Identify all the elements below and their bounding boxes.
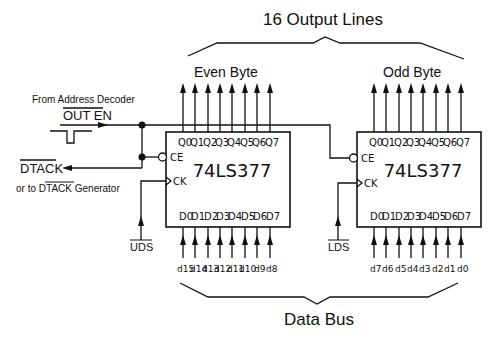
dtack-label: DTACK: [20, 161, 63, 176]
odd-input-pins: [371, 227, 464, 258]
bottom-brace: [180, 283, 458, 304]
even-ce-label: CE: [170, 152, 183, 163]
odd-chip-part-number: 74LS377: [384, 160, 463, 181]
output-lines-title: 16 Output Lines: [263, 10, 383, 29]
svg-text:d6: d6: [382, 264, 394, 274]
data-bus-label: Data Bus: [284, 310, 354, 329]
arrow-left-icon: [62, 165, 72, 171]
even-chip-part-number: 74LS377: [193, 160, 272, 181]
odd-output-pins: [371, 83, 464, 132]
svg-text:Q7: Q7: [265, 137, 279, 148]
svg-text:D6: D6: [444, 211, 458, 222]
uds-clock-wire: [141, 181, 166, 240]
even-byte-label: Even Byte: [194, 64, 258, 80]
ce-inversion-bubble: [350, 154, 358, 162]
svg-text:D6: D6: [253, 211, 267, 222]
svg-text:D1: D1: [191, 211, 205, 222]
even-ck-label: CK: [173, 176, 187, 187]
odd-byte-label: Odd Byte: [383, 64, 442, 80]
uds-label: UDS: [130, 241, 153, 253]
top-brace: [188, 37, 464, 59]
svg-text:d3: d3: [419, 264, 430, 274]
active-low-pulse-icon: [50, 131, 92, 143]
svg-text:d7: d7: [370, 264, 381, 274]
svg-text:d5: d5: [395, 264, 406, 274]
svg-text:d8: d8: [266, 264, 278, 274]
out-en-signal-label: OUT EN: [63, 108, 112, 123]
svg-text:D1: D1: [382, 211, 396, 222]
address-decoder-label: From Address Decoder: [32, 94, 135, 105]
odd-ck-label: CK: [364, 178, 378, 189]
even-bus-labels: d15 d14 d13 d12 d11 d10 d9 d8: [177, 264, 278, 274]
svg-text:d0: d0: [457, 264, 469, 274]
lds-label: LDS: [328, 241, 349, 253]
even-d-labels: D0 D1 D2 D3 D4 D5 D6 D7: [179, 211, 280, 222]
odd-ce-label: CE: [361, 153, 374, 164]
dtack-generator-label: or to DTACK Generator: [16, 183, 120, 194]
svg-text:d1: d1: [444, 264, 455, 274]
odd-q-labels: Q0 Q1 Q2 Q3 Q4 Q5 Q6 Q7: [369, 137, 470, 148]
svg-text:d4: d4: [407, 264, 419, 274]
ce-inversion-bubble: [159, 153, 167, 161]
svg-text:D7: D7: [266, 211, 280, 222]
lds-clock-wire: [338, 183, 357, 240]
even-input-pins: [180, 227, 273, 258]
svg-text:Q7: Q7: [456, 137, 470, 148]
svg-text:D7: D7: [457, 211, 471, 222]
arrow-up-icon: [335, 216, 341, 226]
even-q-labels: Q0 Q1 Q2 Q3 Q4 Q5 Q6 Q7: [178, 137, 279, 148]
odd-d-labels: D0 D1 D2 D3 D4 D5 D6 D7: [370, 211, 471, 222]
arrow-up-icon: [138, 216, 144, 226]
circuit-diagram: 16 Output Lines Even Byte Odd Byte From …: [0, 0, 495, 339]
svg-text:d2: d2: [432, 264, 443, 274]
odd-bus-labels: d7 d6 d5 d4 d3 d2 d1 d0: [370, 264, 469, 274]
svg-text:d9: d9: [254, 264, 266, 274]
svg-text:D4: D4: [419, 211, 433, 222]
svg-text:D4: D4: [228, 211, 242, 222]
